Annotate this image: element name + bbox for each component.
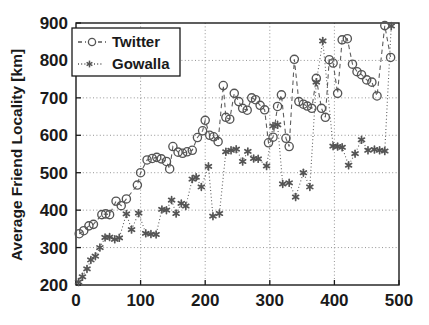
- y-axis-title: Average Friend Locality [km]: [8, 49, 25, 261]
- legend-label-gowalla: Gowalla: [112, 55, 170, 72]
- x-tick-label: 100: [126, 291, 154, 310]
- x-tick-label: 300: [256, 291, 284, 310]
- legend: Twitter Gowalla: [72, 28, 180, 76]
- y-tick-label: 700: [40, 89, 68, 108]
- figure-container: 0100200300400500 20030040050060070080090…: [0, 0, 429, 325]
- friend-locality-scatter-chart: 0100200300400500 20030040050060070080090…: [0, 0, 429, 325]
- legend-label-twitter: Twitter: [112, 33, 160, 50]
- y-tick-label: 400: [40, 201, 68, 220]
- y-tick-label: 200: [40, 276, 68, 295]
- y-tick-label: 900: [40, 14, 68, 33]
- y-tick-label: 300: [40, 239, 68, 258]
- x-tick-label: 400: [320, 291, 348, 310]
- y-tick-label: 800: [40, 51, 68, 70]
- y-tick-label: 600: [40, 126, 68, 145]
- x-tick-label: 0: [71, 291, 80, 310]
- x-tick-label: 200: [191, 291, 219, 310]
- x-tick-label: 500: [385, 291, 413, 310]
- y-tick-label: 500: [40, 164, 68, 183]
